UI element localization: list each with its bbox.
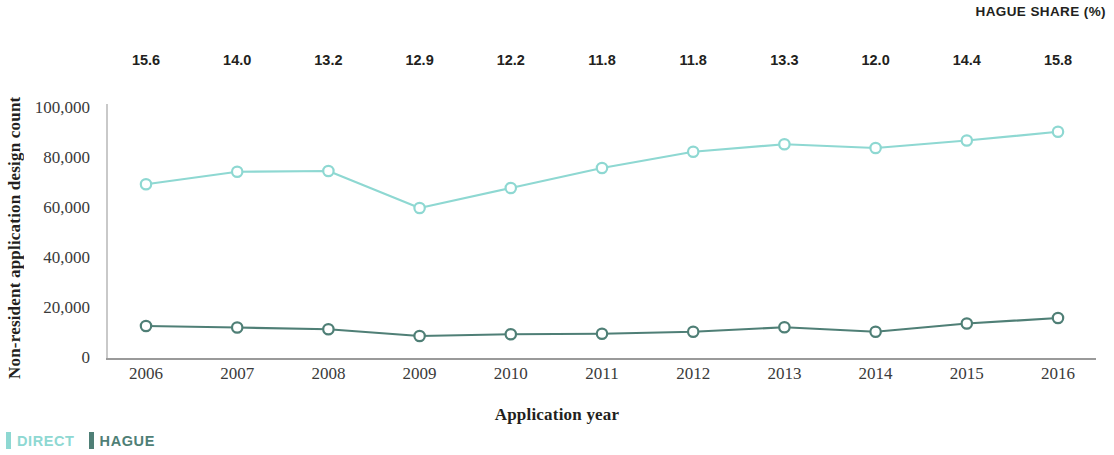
hague-share-title: HAGUE SHARE (%): [975, 4, 1106, 19]
series-canvas: [108, 108, 1096, 358]
x-tick-label: 2013: [767, 364, 801, 384]
y-tick-label: 80,000: [43, 148, 90, 168]
data-point-hague: [962, 318, 972, 328]
plot-area: [108, 108, 1096, 358]
hague-share-value: 12.0: [861, 52, 889, 68]
y-tick-label: 60,000: [43, 198, 90, 218]
data-point-hague: [688, 327, 698, 337]
x-axis-title: Application year: [0, 405, 1114, 425]
data-point-direct: [232, 167, 242, 177]
hague-share-value: 14.0: [223, 52, 251, 68]
data-point-direct: [1053, 127, 1063, 137]
legend-label: HAGUE: [100, 433, 155, 449]
y-tick-label: 20,000: [43, 298, 90, 318]
data-point-hague: [870, 327, 880, 337]
data-point-direct: [870, 143, 880, 153]
line-chart: HAGUE SHARE (%) 15.614.013.212.912.211.8…: [0, 0, 1114, 455]
x-axis-ticks: 2006200720082009201020112012201320142015…: [108, 364, 1096, 390]
legend-item-hague[interactable]: HAGUE: [89, 432, 155, 449]
hague-share-value: 11.8: [588, 52, 615, 68]
x-tick-label: 2008: [311, 364, 345, 384]
x-tick-label: 2015: [950, 364, 984, 384]
data-point-direct: [323, 166, 333, 176]
x-tick-label: 2007: [220, 364, 254, 384]
x-tick-label: 2014: [859, 364, 893, 384]
legend-swatch-icon: [6, 432, 11, 449]
data-point-hague: [141, 321, 151, 331]
hague-share-value: 15.6: [132, 52, 160, 68]
data-point-hague: [597, 329, 607, 339]
hague-share-value-row: 15.614.013.212.912.211.811.813.312.014.4…: [108, 52, 1096, 76]
y-tick-label: 100,000: [35, 98, 90, 118]
x-tick-label: 2016: [1041, 364, 1075, 384]
data-point-hague: [232, 322, 242, 332]
data-point-direct: [414, 203, 424, 213]
data-point-direct: [597, 163, 607, 173]
legend-swatch-icon: [89, 432, 94, 449]
hague-share-value: 13.2: [314, 52, 342, 68]
data-point-direct: [688, 147, 698, 157]
x-tick-label: 2012: [676, 364, 710, 384]
data-point-hague: [506, 329, 516, 339]
hague-share-value: 15.8: [1044, 52, 1072, 68]
hague-share-value: 13.3: [770, 52, 798, 68]
data-point-direct: [962, 135, 972, 145]
legend-label: DIRECT: [17, 433, 75, 449]
x-tick-label: 2011: [585, 364, 618, 384]
data-point-hague: [323, 324, 333, 334]
y-tick-label: 0: [82, 348, 91, 368]
x-axis-line: [106, 358, 1096, 360]
hague-share-value: 12.2: [497, 52, 525, 68]
x-tick-label: 2009: [403, 364, 437, 384]
data-point-hague: [414, 331, 424, 341]
legend-item-direct[interactable]: DIRECT: [6, 432, 75, 449]
y-tick-label: 40,000: [43, 248, 90, 268]
x-tick-label: 2006: [129, 364, 163, 384]
x-tick-label: 2010: [494, 364, 528, 384]
hague-share-value: 14.4: [953, 52, 981, 68]
y-axis-ticks: 020,00040,00060,00080,000100,000: [0, 108, 100, 358]
hague-share-value: 11.8: [679, 52, 706, 68]
hague-share-value: 12.9: [405, 52, 433, 68]
data-point-direct: [141, 179, 151, 189]
data-point-hague: [1053, 313, 1063, 323]
chart-legend: DIRECTHAGUE: [6, 432, 161, 449]
data-point-direct: [506, 183, 516, 193]
data-point-hague: [779, 322, 789, 332]
data-point-direct: [779, 139, 789, 149]
